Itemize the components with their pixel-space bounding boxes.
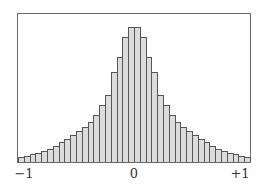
x-tick-label-plus-one: +1 xyxy=(230,166,249,181)
histogram-plot-area xyxy=(17,13,251,163)
histogram-bars xyxy=(18,14,250,162)
x-tick-label-zero: 0 xyxy=(130,166,138,181)
x-tick-label-minus-one: −1 xyxy=(14,166,33,181)
histogram-bar xyxy=(244,157,251,162)
